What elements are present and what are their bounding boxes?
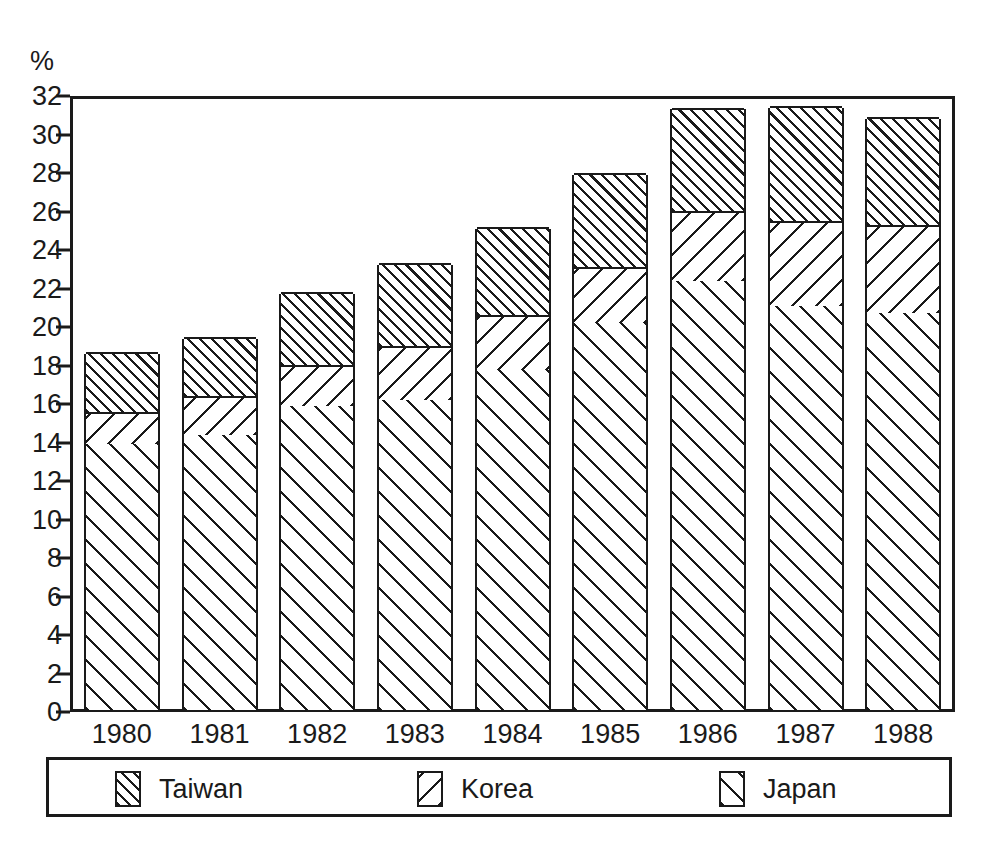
stacked-bar[interactable]	[865, 119, 941, 712]
y-axis-tick-label: 22	[0, 275, 62, 302]
y-axis-unit-label: %	[30, 46, 54, 76]
y-axis-tick-label: 30	[0, 121, 62, 148]
bar-group	[865, 99, 941, 712]
y-axis-tick-label: 4	[0, 622, 62, 649]
bar-segment-korea[interactable]	[477, 315, 549, 369]
bar-segment-korea[interactable]	[281, 365, 353, 405]
bar-segment-taiwan[interactable]	[770, 106, 842, 222]
bar-segment-japan[interactable]	[86, 444, 158, 710]
stacked-bar[interactable]	[572, 175, 648, 712]
x-axis-tick-label: 1985	[561, 718, 659, 750]
y-axis-tick-label: 10	[0, 506, 62, 533]
bar-segment-japan[interactable]	[770, 306, 842, 710]
taiwan-hatch-swatch	[115, 771, 141, 807]
x-axis-tick-label: 1988	[854, 718, 952, 750]
bar-segment-taiwan[interactable]	[86, 352, 158, 412]
bar-segment-taiwan[interactable]	[379, 263, 451, 346]
y-axis-tick-label: 12	[0, 468, 62, 495]
y-axis-tick-label: 6	[0, 583, 62, 610]
y-axis-tick-label: 26	[0, 198, 62, 225]
bar-segment-japan[interactable]	[379, 400, 451, 710]
y-axis-tick-label: 24	[0, 237, 62, 264]
y-axis-tick-mark	[56, 210, 70, 213]
y-axis-tick-label: 0	[0, 699, 62, 726]
bar-group	[377, 99, 453, 712]
bar-segment-korea[interactable]	[574, 267, 646, 323]
y-axis-tick-label: 2	[0, 660, 62, 687]
bar-segment-taiwan[interactable]	[574, 173, 646, 267]
bar-segment-korea[interactable]	[770, 221, 842, 306]
y-axis-tick-label: 14	[0, 429, 62, 456]
y-axis-tick-label: 20	[0, 314, 62, 341]
y-axis-tick-mark	[56, 326, 70, 329]
bar-group	[670, 99, 746, 712]
y-axis-tick-mark	[56, 711, 70, 714]
bar-segment-japan[interactable]	[184, 435, 256, 710]
bar-segment-korea[interactable]	[867, 225, 939, 314]
legend-label: Taiwan	[159, 774, 243, 804]
bar-segment-japan[interactable]	[672, 281, 744, 710]
stacked-bar[interactable]	[768, 108, 844, 712]
bar-segment-taiwan[interactable]	[867, 117, 939, 225]
x-axis-tick-label: 1980	[73, 718, 171, 750]
legend-entry-japan[interactable]: Japan	[719, 769, 837, 809]
legend-label: Korea	[461, 774, 533, 804]
x-axis-tick-label: 1987	[757, 718, 855, 750]
bar-segment-taiwan[interactable]	[184, 337, 256, 397]
y-axis-tick-mark	[56, 403, 70, 406]
bar-group	[182, 99, 258, 712]
y-axis-tick-label: 8	[0, 545, 62, 572]
bar-segment-korea[interactable]	[672, 211, 744, 280]
y-axis-tick-mark	[56, 518, 70, 521]
y-axis-tick-mark	[56, 249, 70, 252]
stacked-bar[interactable]	[670, 109, 746, 712]
legend-entry-korea[interactable]: Korea	[417, 769, 533, 809]
y-axis-tick-label: 16	[0, 391, 62, 418]
x-axis-tick-label: 1986	[659, 718, 757, 750]
bar-segment-taiwan[interactable]	[672, 108, 744, 212]
bar-segment-taiwan[interactable]	[477, 227, 549, 316]
stacked-bar[interactable]	[279, 294, 355, 712]
y-axis-tick-mark	[56, 172, 70, 175]
bar-segment-japan[interactable]	[574, 323, 646, 710]
y-axis-tick-mark	[56, 634, 70, 637]
y-axis-tick-mark	[56, 480, 70, 483]
stacked-bar[interactable]	[475, 229, 551, 712]
legend-label: Japan	[763, 774, 837, 804]
y-axis-tick-label: 18	[0, 352, 62, 379]
y-axis-tick-mark	[56, 557, 70, 560]
y-axis-tick-label: 28	[0, 160, 62, 187]
stacked-bar-chart-figure: % 198019811982198319841985198619871988 T…	[0, 0, 998, 851]
stacked-bar[interactable]	[84, 354, 160, 712]
y-axis-tick-mark	[56, 95, 70, 98]
x-axis-tick-label: 1983	[366, 718, 464, 750]
y-axis-tick-label: 32	[0, 83, 62, 110]
y-axis-tick-mark	[56, 364, 70, 367]
x-axis-tick-label: 1984	[464, 718, 562, 750]
stacked-bar[interactable]	[182, 339, 258, 712]
bar-segment-japan[interactable]	[867, 313, 939, 710]
bar-group	[279, 99, 355, 712]
bar-segment-korea[interactable]	[86, 412, 158, 445]
y-axis-tick-mark	[56, 595, 70, 598]
bar-segment-japan[interactable]	[281, 406, 353, 710]
bar-group	[84, 99, 160, 712]
bar-segment-taiwan[interactable]	[281, 292, 353, 365]
bars-layer	[73, 99, 952, 712]
stacked-bar[interactable]	[377, 265, 453, 712]
bar-group	[475, 99, 551, 712]
bar-segment-korea[interactable]	[379, 346, 451, 400]
legend-entry-taiwan[interactable]: Taiwan	[115, 769, 243, 809]
bar-group	[572, 99, 648, 712]
bar-group	[768, 99, 844, 712]
chart-legend: TaiwanKoreaJapan	[46, 757, 952, 817]
bar-segment-japan[interactable]	[477, 369, 549, 710]
y-axis-tick-mark	[56, 287, 70, 290]
japan-hatch-swatch	[719, 771, 745, 807]
y-axis-tick-mark	[56, 133, 70, 136]
x-axis-tick-label: 1981	[171, 718, 269, 750]
x-axis-tick-label: 1982	[268, 718, 366, 750]
y-axis-tick-mark	[56, 672, 70, 675]
x-axis-tick-labels: 198019811982198319841985198619871988	[73, 718, 952, 758]
bar-segment-korea[interactable]	[184, 396, 256, 435]
